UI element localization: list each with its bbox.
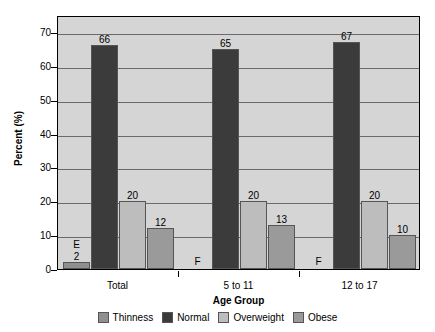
bar-value-label: 10 <box>383 225 422 235</box>
legend-item: Normal <box>162 312 209 323</box>
legend-label: Normal <box>177 312 209 323</box>
bar-value-label: 12 <box>141 218 180 228</box>
plot-area: 2E662012F652013F672010 <box>57 16 420 270</box>
legend-label: Thinness <box>113 312 154 323</box>
y-tick-mark <box>51 270 57 271</box>
x-tick-mark <box>299 271 300 277</box>
y-tick-label: 10 <box>21 231 51 241</box>
bar-value-label: 20 <box>355 191 394 201</box>
bar-value-label: 20 <box>113 191 152 201</box>
bar <box>268 225 295 269</box>
x-tick-label: Total <box>63 280 173 291</box>
y-tick-label: 50 <box>21 96 51 106</box>
y-tick-label: 30 <box>21 163 51 173</box>
legend-label: Overweight <box>233 312 284 323</box>
bar <box>361 201 388 269</box>
x-tick-label: 5 to 11 <box>184 280 294 291</box>
legend-swatch-icon <box>98 312 109 323</box>
x-axis-title: Age Group <box>57 295 420 306</box>
legend-item: Obese <box>293 312 337 323</box>
legend-item: Thinness <box>98 312 154 323</box>
bar-value-label: 65 <box>206 39 245 49</box>
bar-value-label: 20 <box>234 191 273 201</box>
bar-chart: Percent (%) 010203040506070 2E662012F652… <box>0 0 435 332</box>
y-tick-label: 20 <box>21 197 51 207</box>
bar <box>240 201 267 269</box>
bar <box>333 42 360 269</box>
legend-item: Overweight <box>218 312 284 323</box>
y-tick-label: 40 <box>21 130 51 140</box>
bar <box>147 228 174 269</box>
bar <box>212 49 239 269</box>
bar <box>119 201 146 269</box>
legend-swatch-icon <box>293 312 304 323</box>
bar <box>389 235 416 269</box>
legend-swatch-icon <box>162 312 173 323</box>
bar-value-label: 67 <box>327 32 366 42</box>
bar <box>91 45 118 269</box>
chart-legend: ThinnessNormalOverweightObese <box>0 312 435 323</box>
x-tick-mark <box>178 271 179 277</box>
bar-value-label: 66 <box>85 35 124 45</box>
bar-value-label: 13 <box>262 215 301 225</box>
y-tick-label: 0 <box>21 265 51 275</box>
bar <box>63 262 90 269</box>
legend-swatch-icon <box>218 312 229 323</box>
x-tick-label: 12 to 17 <box>305 280 415 291</box>
y-tick-label: 70 <box>21 28 51 38</box>
legend-label: Obese <box>308 312 337 323</box>
y-tick-label: 60 <box>21 62 51 72</box>
